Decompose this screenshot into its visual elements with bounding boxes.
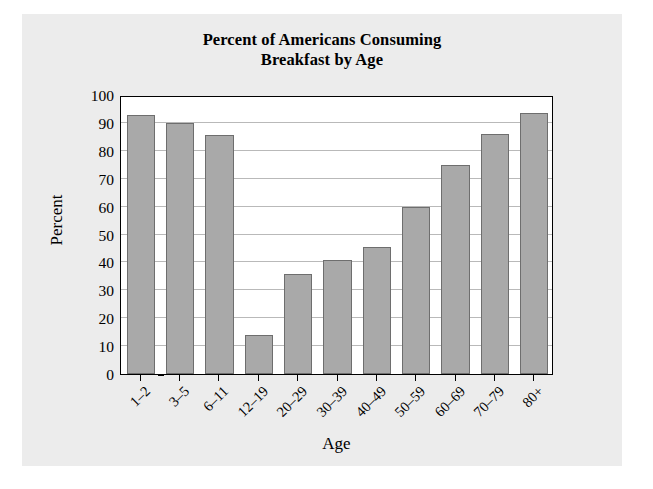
bar (245, 335, 273, 374)
bar (520, 113, 548, 374)
y-axis-tick-label: 30 (74, 282, 114, 300)
x-axis-tick-mark (218, 375, 219, 381)
y-axis-tick-label: 40 (74, 254, 114, 272)
x-axis-tick-mark (179, 375, 180, 381)
x-axis-tick-mark (376, 375, 377, 381)
bar (402, 207, 430, 374)
y-axis-tick-label: 80 (74, 143, 114, 161)
y-axis-tick-label: 50 (74, 227, 114, 245)
y-axis-tick-label: 100 (74, 87, 114, 105)
bar (441, 165, 469, 374)
y-axis-label: Percent (47, 160, 67, 280)
y-axis-tick-label: 70 (74, 171, 114, 189)
bar (323, 260, 351, 374)
chart-title: Percent of Americans Consuming Breakfast… (22, 30, 622, 70)
y-axis-tick-labels: 0102030405060708090100 (66, 96, 114, 375)
y-axis-tick-label: 0 (74, 366, 114, 384)
chart-figure: Percent of Americans Consuming Breakfast… (22, 14, 622, 466)
bar (166, 123, 194, 374)
x-axis-tick-mark (258, 375, 259, 381)
x-axis-tick-mark (533, 375, 534, 381)
x-axis-tick-mark (337, 375, 338, 381)
x-axis-tick-mark (494, 375, 495, 381)
x-axis-label: Age (120, 434, 553, 454)
plot-area (120, 96, 553, 375)
bar (127, 115, 155, 374)
chart-title-line-1: Percent of Americans Consuming (22, 30, 622, 50)
y-axis-tick-label: 60 (74, 199, 114, 217)
bar-series (121, 97, 552, 374)
bar (284, 274, 312, 374)
y-axis-tick-label: 20 (74, 310, 114, 328)
x-axis-tick-mark (297, 375, 298, 381)
y-axis-tick-label: 90 (74, 115, 114, 133)
chart-title-line-2: Breakfast by Age (22, 50, 622, 70)
bar (205, 135, 233, 374)
x-axis-tick-labels: 1–23–56–1112–1920–2930–3940–4950–5960–69… (120, 375, 553, 435)
x-axis-tick-mark (415, 375, 416, 381)
x-axis-tick-mark (140, 375, 141, 381)
bar (363, 247, 391, 374)
y-axis-tick-label: 10 (74, 338, 114, 356)
bar (481, 134, 509, 374)
x-axis-tick-mark (455, 375, 456, 381)
